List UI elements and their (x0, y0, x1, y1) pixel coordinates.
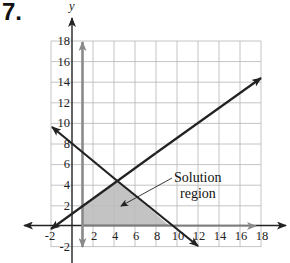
increasing-line (156, 78, 261, 153)
svg-text:16: 16 (235, 229, 248, 243)
svg-text:8: 8 (64, 137, 70, 151)
x-tick-labels: -2 2 4 6 8 10 12 14 16 18 (45, 229, 268, 243)
y-axis-label: y (67, 0, 75, 13)
svg-text:10: 10 (172, 229, 185, 243)
graph: Solution region y 18 16 14 12 10 8 6 4 2… (0, 0, 290, 263)
svg-text:8: 8 (154, 229, 160, 243)
svg-text:12: 12 (58, 96, 71, 110)
annotation-line2: region (180, 186, 216, 201)
svg-text:2: 2 (64, 199, 70, 213)
svg-text:14: 14 (214, 229, 227, 243)
svg-text:4: 4 (64, 178, 71, 192)
svg-text:-2: -2 (60, 240, 70, 254)
svg-text:2: 2 (91, 229, 97, 243)
svg-text:18: 18 (256, 229, 269, 243)
svg-text:16: 16 (58, 55, 71, 69)
annotation-line1: Solution (174, 170, 221, 185)
svg-text:12: 12 (193, 229, 206, 243)
svg-text:-2: -2 (45, 229, 55, 243)
svg-text:4: 4 (112, 229, 119, 243)
svg-text:10: 10 (58, 116, 71, 130)
svg-text:14: 14 (58, 75, 71, 89)
svg-text:18: 18 (58, 34, 71, 48)
svg-text:6: 6 (133, 229, 139, 243)
decreasing-line (52, 127, 118, 182)
svg-text:6: 6 (64, 157, 70, 171)
